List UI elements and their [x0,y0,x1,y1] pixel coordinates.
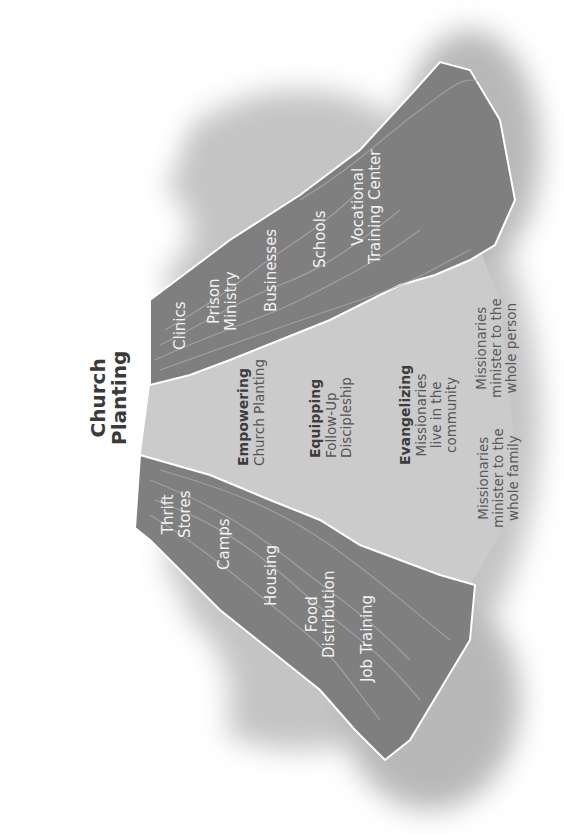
label-vocational-training-center: Vocational Training Center [350,150,384,264]
label-line: Clinics [172,301,189,350]
stage-line: community [444,365,459,465]
label-line: Job Training [359,595,376,682]
label-job-training: Job Training [359,595,376,682]
stage-line: Follow-Up [324,377,339,458]
ministry-diagram: Church Planting Empowering Church Planti… [0,0,564,835]
stage-line: Church Planting [252,359,267,466]
diagram-background [0,0,564,835]
stage-heading: Equipping [308,377,324,458]
stage-line: Discipleship [339,377,354,458]
label-line: Prison [206,271,223,331]
label-line: Camps [216,518,233,570]
note-line: whole family [506,428,521,528]
label-businesses: Businesses [263,229,280,312]
label-camps: Camps [216,518,233,570]
label-thrift-stores: Thrift Stores [160,491,194,538]
note-line: Missionaries [476,428,491,528]
note-line: minister to the [489,298,504,398]
stage-line: live in the [429,365,444,465]
title-line-2: Planting [109,351,130,445]
label-schools: Schools [312,210,329,268]
note-whole-person: Missionaries minister to the whole perso… [474,298,519,398]
label-line: Ministry [223,271,240,331]
stage-heading: Evangelizing [398,365,414,465]
note-whole-family: Missionaries minister to the whole famil… [476,428,521,528]
label-line: Thrift [160,491,177,538]
note-line: Missionaries [474,298,489,398]
label-line: Distribution [321,570,338,658]
note-line: minister to the [491,428,506,528]
label-line: Vocational [350,150,367,264]
label-line: Stores [177,491,194,538]
label-line: Food [304,570,321,658]
label-line: Training Center [367,150,384,264]
diagram-title: Church Planting [88,351,130,445]
stage-line: Missionaries [414,365,429,465]
stage-evangelizing: Evangelizing Missionaries live in the co… [398,365,459,465]
stage-heading: Empowering [236,359,252,466]
stage-empowering: Empowering Church Planting [236,359,267,466]
label-line: Schools [312,210,329,268]
label-line: Businesses [263,229,280,312]
title-line-1: Church [88,351,109,445]
stage-equipping: Equipping Follow-Up Discipleship [308,377,354,458]
label-prison-ministry: Prison Ministry [206,271,240,331]
label-food-distribution: Food Distribution [304,570,338,658]
label-line: Housing [263,545,280,606]
label-housing: Housing [263,545,280,606]
note-line: whole person [504,298,519,398]
label-clinics: Clinics [172,301,189,350]
